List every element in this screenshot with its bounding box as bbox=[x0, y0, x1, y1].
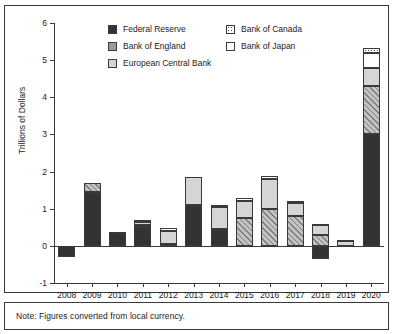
y-tick-label: 6 bbox=[42, 19, 47, 28]
x-tick bbox=[92, 283, 93, 287]
x-tick-label: 2014 bbox=[210, 291, 229, 300]
bar-segment-boe[interactable] bbox=[312, 235, 329, 246]
x-tick-label: 2017 bbox=[286, 291, 305, 300]
legend-label: Bank of Canada bbox=[241, 25, 302, 34]
bar-segment-fed[interactable] bbox=[312, 246, 329, 259]
bar-segment-ecb[interactable] bbox=[261, 179, 278, 209]
x-tick-label: 2019 bbox=[336, 291, 355, 300]
y-tick-label: 4 bbox=[42, 93, 47, 102]
x-tick-label: 2008 bbox=[57, 291, 76, 300]
bar-segment-fed[interactable] bbox=[134, 227, 151, 246]
bar-segment-fed[interactable] bbox=[211, 229, 228, 246]
y-tick bbox=[50, 172, 54, 173]
note-text: Note: Figures converted from local curre… bbox=[16, 311, 185, 321]
x-tick-label: 2009 bbox=[83, 291, 102, 300]
y-tick bbox=[50, 134, 54, 135]
bar-segment-boe[interactable] bbox=[261, 209, 278, 246]
x-tick bbox=[321, 283, 322, 287]
legend-label: Federal Reserve bbox=[123, 25, 186, 34]
bar-segment-fed[interactable] bbox=[109, 232, 126, 246]
legend-label: Bank of Japan bbox=[241, 42, 295, 51]
legend-swatch-fed-icon bbox=[108, 25, 117, 34]
x-tick-label: 2016 bbox=[260, 291, 279, 300]
x-tick bbox=[346, 283, 347, 287]
x-tick-label: 2018 bbox=[311, 291, 330, 300]
y-tick-label: 1 bbox=[42, 204, 47, 213]
bar-segment-ecb[interactable] bbox=[236, 201, 253, 218]
legend-item-boj[interactable]: Bank of Japan bbox=[226, 42, 295, 51]
legend-swatch-ecb-icon bbox=[108, 59, 117, 68]
legend-item-ecb[interactable]: European Central Bank bbox=[108, 59, 211, 68]
y-tick-label: 2 bbox=[42, 167, 47, 176]
bar-segment-ecb[interactable] bbox=[363, 68, 380, 87]
bar-segment-ecb[interactable] bbox=[312, 225, 329, 234]
bar-segment-fed[interactable] bbox=[84, 192, 101, 246]
x-tick-label: 2012 bbox=[159, 291, 178, 300]
zero-baseline bbox=[54, 246, 384, 247]
bar-segment-boe[interactable] bbox=[84, 183, 101, 192]
y-tick bbox=[50, 97, 54, 98]
bar-segment-boj[interactable] bbox=[160, 228, 177, 231]
x-tick bbox=[168, 283, 169, 287]
y-tick-label: -1 bbox=[39, 279, 47, 288]
bar-segment-boj[interactable] bbox=[337, 240, 354, 242]
bar-segment-ecb[interactable] bbox=[211, 207, 228, 229]
x-tick bbox=[270, 283, 271, 287]
x-tick bbox=[371, 283, 372, 287]
chart-figure: Trillions of Dollars -10123456 200820092… bbox=[0, 0, 394, 334]
bar-segment-ecb[interactable] bbox=[185, 177, 202, 205]
bar-segment-fed[interactable] bbox=[58, 246, 75, 257]
bar-segment-ecb[interactable] bbox=[160, 231, 177, 244]
legend-swatch-boc-icon bbox=[226, 25, 235, 34]
x-tick bbox=[244, 283, 245, 287]
bar-segment-fed[interactable] bbox=[363, 134, 380, 245]
chart-legend: Federal ReserveBank of CanadaBank of Eng… bbox=[108, 25, 348, 73]
y-tick bbox=[50, 23, 54, 24]
legend-label: European Central Bank bbox=[123, 59, 211, 68]
x-tick bbox=[117, 283, 118, 287]
bar-segment-boc[interactable] bbox=[363, 48, 380, 52]
x-tick bbox=[67, 283, 68, 287]
x-tick-label: 2020 bbox=[362, 291, 381, 300]
bar-segment-fed[interactable] bbox=[185, 205, 202, 246]
y-tick-label: 5 bbox=[42, 56, 47, 65]
bar-segment-boj[interactable] bbox=[261, 176, 278, 179]
legend-swatch-boe-icon bbox=[108, 42, 117, 51]
bar-segment-boj[interactable] bbox=[363, 53, 380, 68]
y-tick-label: 3 bbox=[42, 130, 47, 139]
x-tick bbox=[219, 283, 220, 287]
legend-item-boe[interactable]: Bank of England bbox=[108, 42, 185, 51]
bar-column[interactable] bbox=[84, 23, 101, 283]
x-tick-label: 2010 bbox=[108, 291, 127, 300]
x-tick-label: 2013 bbox=[184, 291, 203, 300]
x-tick-label: 2011 bbox=[134, 291, 152, 300]
legend-item-boc[interactable]: Bank of Canada bbox=[226, 25, 302, 34]
bar-segment-boe[interactable] bbox=[134, 225, 151, 227]
y-tick bbox=[50, 209, 54, 210]
bar-segment-boj[interactable] bbox=[134, 220, 151, 222]
bar-segment-boc[interactable] bbox=[211, 205, 228, 207]
bar-column[interactable] bbox=[58, 23, 75, 283]
legend-item-fed[interactable]: Federal Reserve bbox=[108, 25, 186, 34]
bar-segment-ecb[interactable] bbox=[134, 222, 151, 226]
x-tick bbox=[143, 283, 144, 287]
bar-segment-boj[interactable] bbox=[236, 198, 253, 202]
bar-segment-boe[interactable] bbox=[287, 216, 304, 246]
y-axis-line bbox=[54, 23, 55, 283]
x-tick bbox=[295, 283, 296, 287]
chart-panel: Trillions of Dollars -10123456 200820092… bbox=[4, 5, 389, 293]
y-tick bbox=[50, 60, 54, 61]
y-tick-label: 0 bbox=[42, 242, 47, 251]
bar-segment-boj[interactable] bbox=[312, 224, 329, 226]
bar-segment-boe[interactable] bbox=[236, 218, 253, 246]
y-tick bbox=[50, 283, 54, 284]
y-axis-title: Trillions of Dollars bbox=[17, 87, 27, 154]
bar-segment-boe[interactable] bbox=[363, 86, 380, 134]
legend-label: Bank of England bbox=[123, 42, 185, 51]
bar-segment-ecb[interactable] bbox=[287, 203, 304, 216]
x-tick-label: 2015 bbox=[235, 291, 254, 300]
x-tick bbox=[194, 283, 195, 287]
bar-segment-boj[interactable] bbox=[287, 201, 304, 203]
bar-column[interactable] bbox=[363, 23, 380, 283]
legend-swatch-boj-icon bbox=[226, 42, 235, 51]
